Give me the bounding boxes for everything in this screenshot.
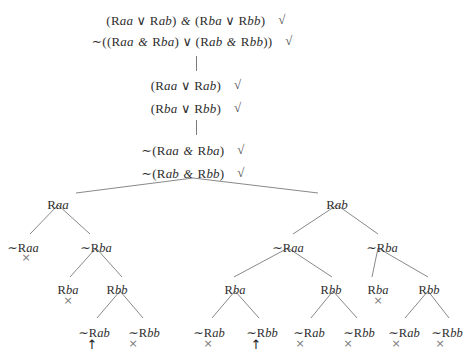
tableau-formula: ∼(Rab & Rbb)√ <box>141 166 244 182</box>
closed-branch-icon: × <box>128 338 137 349</box>
vertical-connector <box>196 56 197 71</box>
tree-node: Rba <box>225 283 246 298</box>
tableau-formula: ∼(Raa & Rba)√ <box>141 143 244 159</box>
formula-check-icon: √ <box>237 142 244 158</box>
closed-branch-icon: × <box>343 338 352 349</box>
tableau-formula: (Raa ∨ Rab)√ <box>151 78 242 94</box>
formula-text: ∼(Raa & Rba) <box>141 143 224 159</box>
tree-node: Rab <box>326 197 348 213</box>
tree-node: ∼Rba <box>366 240 397 256</box>
formula-text: ∼(Rab & Rbb) <box>141 166 224 182</box>
tableau-formula: ∼((Raa & Rba) ∨ (Rab & Rbb))√ <box>91 34 292 50</box>
tableau-formula: (Rba ∨ Rbb)√ <box>151 101 242 117</box>
tree-node: ∼Raa <box>272 240 303 256</box>
formula-text: (Raa ∨ Rab) <box>151 78 221 94</box>
open-branch-icon: ↑ <box>251 338 262 351</box>
closed-branch-icon: × <box>435 338 444 349</box>
closed-branch-icon: × <box>63 295 72 306</box>
vertical-connector <box>196 120 197 135</box>
closed-branch-icon: × <box>21 252 30 263</box>
tree-node: Rbb <box>321 283 342 298</box>
closed-branch-icon: × <box>391 338 400 349</box>
tree-node: Raa <box>47 197 69 213</box>
closed-branch-icon: × <box>203 338 212 349</box>
formula-check-icon: √ <box>285 33 292 49</box>
tree-node: Rbb <box>419 283 440 298</box>
open-branch-icon: ↑ <box>87 338 98 351</box>
formula-text: ∼((Raa & Rba) ∨ (Rab & Rbb)) <box>91 34 272 50</box>
tableau-page: (Raa ∨ Rab) & (Rba ∨ Rbb)√∼((Raa & Rba) … <box>0 0 465 355</box>
formula-check-icon: √ <box>237 165 244 181</box>
tree-node: Rbb <box>107 283 128 298</box>
formula-check-icon: √ <box>278 12 285 28</box>
clipped-top-artifact <box>0 0 465 2</box>
formula-text: (Rba ∨ Rbb) <box>151 101 221 117</box>
formula-check-icon: √ <box>234 100 241 116</box>
tableau-formula: (Raa ∨ Rab) & (Rba ∨ Rbb)√ <box>106 13 285 29</box>
formula-check-icon: √ <box>234 77 241 93</box>
closed-branch-icon: × <box>295 338 304 349</box>
formula-text: (Raa ∨ Rab) & (Rba ∨ Rbb) <box>106 13 265 29</box>
closed-branch-icon: × <box>373 295 382 306</box>
tree-node: ∼Rba <box>80 240 111 256</box>
